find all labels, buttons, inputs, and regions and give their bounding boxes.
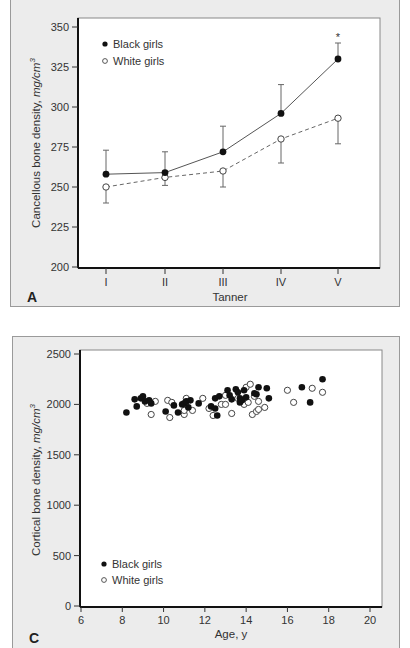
point-black-girls	[123, 409, 130, 416]
point-black-girls	[235, 389, 242, 396]
point-white-girls	[291, 399, 297, 405]
point-white-girls	[309, 385, 315, 391]
point-white-girls	[200, 395, 206, 401]
point-black-girls	[133, 403, 140, 410]
point-white-girls	[262, 404, 268, 410]
x-tick-label: 12	[199, 614, 211, 626]
point-black-girls	[241, 387, 248, 394]
legend-black-marker-icon	[101, 561, 106, 566]
y-axis-title-c: Cortical bone density, mg/cm3	[28, 404, 42, 556]
x-tick-label: 6	[78, 614, 84, 626]
y-tick-label: 1500	[47, 449, 71, 461]
point-black-girls	[185, 404, 192, 411]
y-tick-label: 500	[53, 550, 71, 562]
point-black-girls	[131, 396, 138, 403]
y-tick-label: 2000	[47, 398, 71, 410]
point-black-girls	[171, 402, 178, 409]
point-white-girls	[222, 401, 228, 407]
point-black-girls	[263, 385, 270, 392]
x-tick-label: 14	[240, 614, 252, 626]
point-black-girls	[175, 409, 182, 416]
point-black-girls	[214, 412, 221, 419]
x-ticks-c: 68101214161820	[78, 607, 376, 626]
point-white-girls	[229, 410, 235, 416]
point-black-girls	[162, 408, 169, 415]
point-black-girls	[299, 384, 306, 391]
point-white-girls	[255, 398, 261, 404]
point-black-girls	[212, 405, 219, 412]
x-tick-label: 16	[281, 614, 293, 626]
legend-white-label: White girls	[112, 574, 164, 586]
x-tick-label: 18	[323, 614, 335, 626]
point-black-girls	[243, 394, 250, 401]
y-tick-label: 1000	[47, 499, 71, 511]
point-white-girls	[167, 414, 173, 420]
panel-letter-c: C	[29, 630, 39, 645]
point-white-girls	[247, 381, 253, 387]
x-tick-label: 8	[119, 614, 125, 626]
point-black-girls	[228, 396, 235, 403]
y-tick-label: 2500	[47, 348, 71, 360]
x-tick-label: 10	[157, 614, 169, 626]
point-black-girls	[307, 399, 314, 406]
legend-black-label: Black girls	[112, 558, 163, 570]
legend-white-marker-icon	[102, 578, 107, 583]
point-black-girls	[255, 384, 262, 391]
point-white-girls	[255, 406, 261, 412]
point-white-girls	[319, 389, 325, 395]
point-black-girls	[253, 391, 260, 398]
y-ticks-c: 05001000150020002500	[47, 348, 80, 612]
point-black-girls	[216, 393, 223, 400]
point-white-girls	[284, 387, 290, 393]
point-black-girls	[187, 397, 194, 404]
point-white-girls	[148, 411, 154, 417]
x-axis-title-c: Age, y	[215, 628, 248, 640]
point-black-girls	[266, 395, 273, 402]
point-black-girls	[148, 400, 155, 407]
y-tick-label: 0	[65, 600, 71, 612]
point-black-girls	[319, 376, 326, 383]
point-black-girls	[195, 400, 202, 407]
x-tick-label: 20	[364, 614, 376, 626]
